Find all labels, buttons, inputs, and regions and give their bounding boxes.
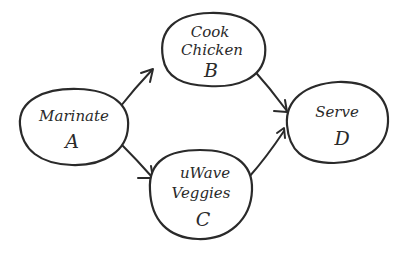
- node-d-serve[interactable]: Serve D: [287, 82, 388, 163]
- node-c-letter: C: [196, 208, 211, 230]
- node-b-name-line2: Chicken: [181, 41, 243, 59]
- node-b-cook-chicken[interactable]: Cook Chicken B: [162, 13, 265, 86]
- task-dependency-diagram: Marinate A Cook Chicken B uWave Veggies …: [0, 0, 406, 256]
- node-d-letter: D: [333, 127, 349, 149]
- node-a-letter: A: [63, 130, 79, 152]
- edge-a-to-b: [120, 69, 153, 107]
- node-d-name: Serve: [315, 103, 359, 121]
- node-b-letter: B: [203, 59, 218, 81]
- edge-b-to-d: [252, 68, 287, 112]
- node-b-name-line1: Cook: [191, 23, 230, 41]
- node-c-name-line2: Veggies: [172, 184, 231, 202]
- node-c-uwave-veggies[interactable]: uWave Veggies C: [150, 150, 252, 239]
- edge-a-to-c: [122, 145, 153, 178]
- node-a-name: Marinate: [38, 107, 109, 125]
- node-c-name-line1: uWave: [180, 164, 230, 182]
- node-a-marinate[interactable]: Marinate A: [20, 89, 128, 165]
- edge-c-to-d: [249, 128, 285, 177]
